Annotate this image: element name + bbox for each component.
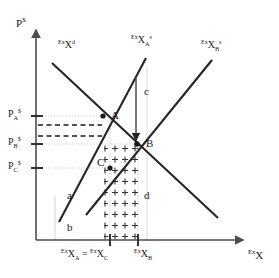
point-c-label: C <box>97 157 104 168</box>
quantity-label-a-equals-c: ExXA = ExXC <box>61 249 108 259</box>
point-c-dot <box>107 165 112 170</box>
point-a-label: A <box>111 110 119 121</box>
supply-demand-figure: P$ ExX ExXd ExXAs ExXBs PA$ PB$ PC$ ExXA… <box>0 0 279 278</box>
demand-curve-label: ExXd <box>58 40 75 50</box>
point-b-dot <box>134 141 140 147</box>
price-label-c: PC$ <box>8 161 21 171</box>
point-b-label: B <box>146 138 153 149</box>
dashed-price-band <box>38 125 102 136</box>
area-label-b: b <box>67 222 73 233</box>
y-axis-title: P$ <box>16 18 26 29</box>
quantity-label-b: ExXB <box>134 249 152 259</box>
price-label-a: PA$ <box>8 109 21 119</box>
area-label-c: c <box>144 86 149 97</box>
area-label-a: a <box>67 190 72 201</box>
supply-b-curve-label: ExXBs <box>201 40 221 50</box>
area-label-d: d <box>144 190 150 201</box>
price-tick-marks <box>31 116 43 168</box>
price-label-b: PB$ <box>8 137 21 147</box>
point-a-dot <box>100 113 105 118</box>
x-axis-title: ExX <box>248 250 263 261</box>
supply-a-curve-label: ExXAs <box>131 35 152 45</box>
